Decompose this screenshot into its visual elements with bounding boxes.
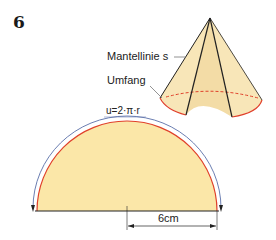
cone-figure	[160, 18, 262, 117]
radius-dimension-label: 6cm	[158, 212, 179, 224]
circumference-leader	[150, 86, 162, 98]
semicircle-net	[31, 116, 223, 230]
circumference-label: Umfang	[107, 74, 146, 86]
slant-line-label: Mantellinie s	[107, 50, 168, 62]
diagram-canvas	[0, 0, 276, 240]
exercise-number: 6	[13, 12, 25, 32]
arc-formula: u=2·π·r	[106, 105, 140, 116]
